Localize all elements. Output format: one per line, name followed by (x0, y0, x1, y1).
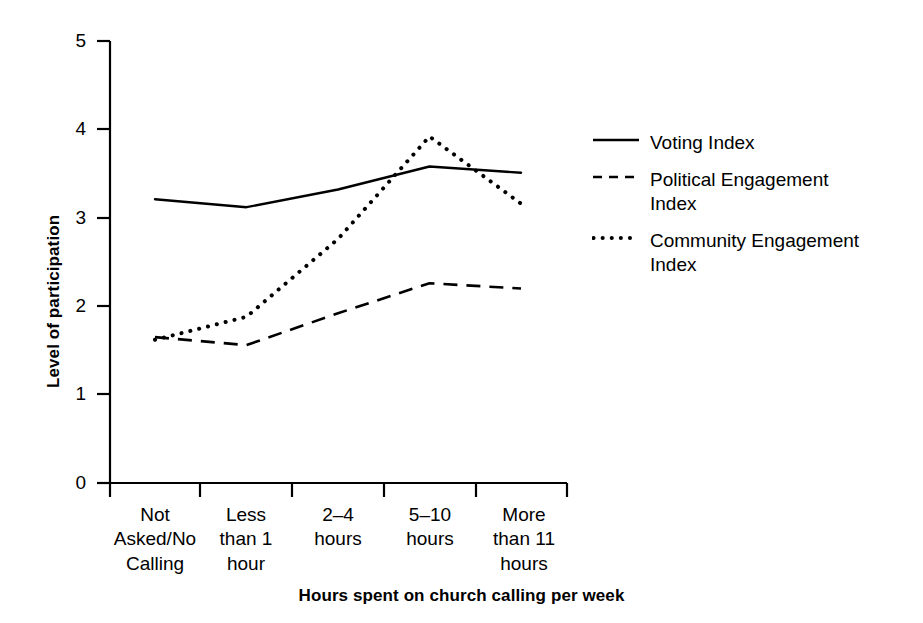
y-axis-ticks (97, 41, 110, 483)
series-political-engagement-index (155, 283, 521, 345)
y-tick-label-0: 0 (60, 473, 86, 492)
x-axis-title: Hours spent on church calling per week (0, 586, 923, 606)
y-tick-label-5: 5 (60, 31, 86, 50)
legend-line-solid-icon (592, 130, 640, 150)
legend-label-community-engagement-index: Community Engagement Index (650, 228, 859, 277)
y-tick-label-4: 4 (60, 119, 86, 138)
series-community-engagement-index (155, 136, 521, 339)
x-category-label-more-than-11-hours: More than 11 hours (465, 503, 583, 576)
legend-line-dotted-icon (592, 228, 640, 248)
series-group (155, 136, 521, 345)
legend-entry-voting-index[interactable]: Voting Index (592, 130, 912, 155)
series-voting-index (155, 167, 521, 208)
legend-entry-political-engagement-index[interactable]: Political Engagement Index (592, 167, 912, 216)
legend-label-voting-index: Voting Index (650, 130, 755, 155)
y-axis-title: Level of participation (44, 215, 64, 388)
x-axis-ticks (110, 483, 567, 497)
legend-label-political-engagement-index: Political Engagement Index (650, 167, 829, 216)
legend-entry-community-engagement-index[interactable]: Community Engagement Index (592, 228, 912, 277)
legend-line-dashed-icon (592, 167, 640, 187)
chart-legend: Voting Index Political Engagement Index … (592, 130, 912, 289)
line-chart-figure: 5 4 3 2 1 0 Not Asked/No Calling Less th… (0, 0, 923, 623)
